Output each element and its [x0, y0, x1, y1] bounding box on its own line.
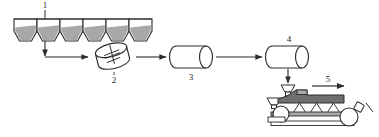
hopper-item	[14, 19, 37, 41]
stage-hoppers: 1	[14, 0, 152, 41]
label-conveyor: 5	[326, 74, 331, 84]
hopper-group	[14, 19, 152, 41]
hopper-item	[129, 19, 152, 41]
roller-right	[340, 108, 358, 126]
label-hoppers: 1	[43, 0, 48, 10]
stage-former: 4	[266, 34, 309, 68]
ejected-product	[354, 102, 373, 113]
hopper-item	[60, 19, 83, 41]
stage-extruder: 3	[170, 46, 213, 82]
label-extruder: 3	[189, 72, 194, 82]
connector-hoppers-to-mixer	[45, 41, 88, 57]
hopper-item	[37, 19, 60, 41]
conveyor-frame	[268, 117, 285, 122]
process-flow-diagram: 1 2	[0, 0, 379, 137]
flow-diagram-canvas: 1 2	[0, 0, 379, 137]
belt-moulds	[293, 103, 340, 113]
stage-mixer: 2	[94, 40, 131, 85]
hopper-item	[106, 19, 129, 41]
hopper-item	[83, 19, 106, 41]
label-former: 4	[287, 34, 292, 44]
label-mixer: 2	[112, 75, 117, 85]
stage-conveyor: 5	[267, 74, 373, 126]
